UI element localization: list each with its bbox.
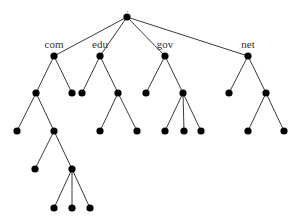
- edge-gov-to-gov-1: [146, 56, 165, 93]
- edge-gov-2-to-gov-2-1: [165, 93, 183, 131]
- tree-node-edu: [96, 52, 103, 59]
- edge-edu-2-to-edu-2-1: [100, 93, 118, 131]
- edge-root-to-com: [54, 17, 127, 56]
- edge-com-1-2-to-com-1-2-2: [54, 131, 72, 169]
- tree-node-net-2: [262, 89, 269, 96]
- tree-node-net-2-2: [280, 127, 287, 134]
- tree-node-com-1-2-2: [68, 165, 75, 172]
- tree-node-edu-2-2: [133, 127, 140, 134]
- edge-gov-2-to-gov-2-3: [183, 93, 201, 131]
- node-label-edu: edu: [92, 38, 108, 50]
- edge-com-1-2-2-to-com-1-2-2-1: [54, 169, 72, 208]
- edge-gov-to-gov-2: [165, 56, 183, 93]
- tree-node-com-1-2-2-2: [68, 204, 75, 211]
- tree-node-com-1: [32, 89, 39, 96]
- edge-com-1-2-to-com-1-2-1: [35, 131, 54, 169]
- edge-root-to-net: [127, 17, 248, 56]
- tree-node-com-1-2-1: [31, 165, 38, 172]
- tree-node-com: [50, 52, 57, 59]
- edge-com-to-com-2: [54, 56, 72, 93]
- tree-node-gov-2-3: [197, 127, 204, 134]
- edge-net-2-to-net-2-2: [266, 93, 284, 131]
- node-label-root: .: [126, 4, 128, 14]
- tree-node-gov-1: [142, 89, 149, 96]
- tree-node-edu-2-1: [96, 127, 103, 134]
- tree-diagram: .comedugovnet: [0, 0, 296, 223]
- tree-node-net-1: [225, 89, 232, 96]
- tree-node-net: [244, 52, 251, 59]
- tree-node-com-1-2: [50, 127, 57, 134]
- node-label-com: com: [45, 38, 64, 50]
- tree-node-gov-2-2: [180, 127, 187, 134]
- tree-node-com-1-1: [13, 127, 20, 134]
- labels-layer: .comedugovnet: [45, 4, 255, 50]
- edge-com-to-com-1: [36, 56, 54, 93]
- edge-net-to-net-2: [248, 56, 266, 93]
- tree-node-com-1-2-2-1: [50, 204, 57, 211]
- tree-node-root: [123, 13, 130, 20]
- edge-net-2-to-net-2-1: [248, 93, 266, 131]
- tree-canvas: .comedugovnet: [0, 0, 296, 223]
- tree-node-com-1-2-2-3: [86, 204, 93, 211]
- edge-edu-2-to-edu-2-2: [118, 93, 137, 131]
- edge-edu-to-edu-1: [82, 56, 100, 93]
- edge-gov-2-to-gov-2-2: [183, 93, 184, 131]
- tree-node-edu-2: [114, 89, 121, 96]
- node-label-gov: gov: [157, 38, 174, 50]
- tree-node-gov: [161, 52, 168, 59]
- tree-node-edu-1: [78, 89, 85, 96]
- tree-node-gov-2: [179, 89, 186, 96]
- tree-node-com-2: [68, 89, 75, 96]
- edge-root-to-edu: [100, 17, 127, 56]
- tree-node-gov-2-1: [161, 127, 168, 134]
- edge-net-to-net-1: [229, 56, 248, 93]
- tree-node-net-2-1: [244, 127, 251, 134]
- edge-com-1-to-com-1-1: [17, 93, 36, 131]
- edge-edu-to-edu-2: [100, 56, 118, 93]
- node-label-net: net: [241, 38, 254, 50]
- edge-com-1-2-2-to-com-1-2-2-3: [72, 169, 90, 208]
- edge-com-1-to-com-1-2: [36, 93, 54, 131]
